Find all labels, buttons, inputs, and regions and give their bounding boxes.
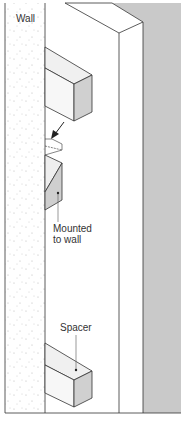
label-spacer: Spacer	[60, 322, 92, 333]
background-shadow	[112, 3, 181, 413]
wall	[5, 3, 45, 413]
label-mounted-line1: Mounted	[53, 223, 92, 234]
label-wall: Wall	[16, 13, 35, 24]
diagram-canvas	[0, 0, 181, 425]
label-mounted-line2: to wall	[53, 234, 81, 245]
